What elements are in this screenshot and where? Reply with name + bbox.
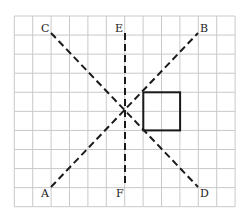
label-B: B <box>200 22 208 35</box>
label-E: E <box>115 22 123 35</box>
label-D: D <box>200 187 209 200</box>
label-A: A <box>40 187 50 200</box>
label-C: C <box>41 22 49 35</box>
label-F: F <box>116 187 124 200</box>
reflection-diagram: CEBAFD <box>0 0 249 218</box>
